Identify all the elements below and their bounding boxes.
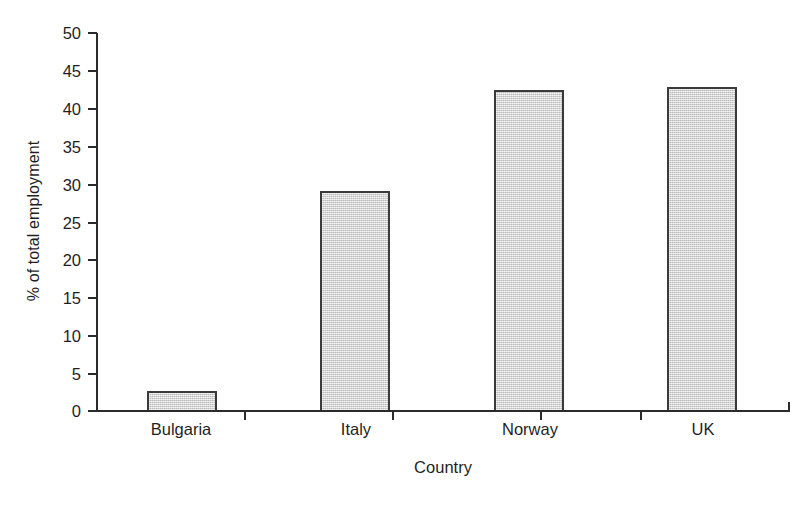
- x-tick-mark: [640, 411, 642, 420]
- y-tick-label: 30: [47, 177, 81, 194]
- bar-norway: [494, 90, 564, 412]
- y-tick-label: 15: [47, 290, 81, 307]
- y-tick-label: 40: [47, 101, 81, 118]
- y-axis-title: % of total employment: [25, 101, 43, 341]
- bar-uk: [667, 87, 737, 412]
- y-tick-label: 35: [47, 139, 81, 156]
- y-tick-label: 20: [47, 252, 81, 269]
- x-axis-title: Country: [96, 458, 790, 477]
- x-tick-mark-end: [788, 402, 790, 411]
- x-tick-mark-origin: [96, 402, 98, 411]
- y-tick-label: 45: [47, 63, 81, 80]
- bar-italy: [320, 191, 390, 412]
- x-tick-mark: [392, 411, 394, 420]
- y-tick-label: 5: [47, 366, 81, 383]
- y-tick-label: 50: [47, 25, 81, 42]
- x-category-label-italy: Italy: [282, 420, 430, 439]
- x-axis-line: [96, 410, 790, 412]
- y-tick-label: 0: [47, 403, 81, 420]
- x-category-label-norway: Norway: [456, 420, 604, 439]
- plot-area: [96, 33, 790, 412]
- x-category-label-bulgaria: Bulgaria: [107, 420, 255, 439]
- y-tick-label: 10: [47, 328, 81, 345]
- x-tick-mark: [540, 411, 542, 420]
- bar-chart-figure: % of total employment 50 45 40 35 30 25 …: [0, 0, 812, 509]
- x-tick-mark: [244, 411, 246, 420]
- x-category-label-uk: UK: [629, 420, 777, 439]
- y-tick-label: 25: [47, 215, 81, 232]
- bar-bulgaria: [147, 391, 217, 412]
